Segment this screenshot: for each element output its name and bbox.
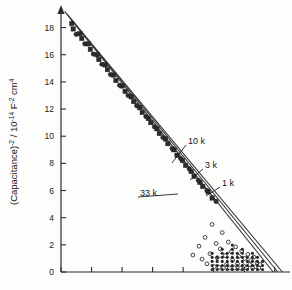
annotation-label: 3 k [205, 160, 218, 170]
annotation-label: 33 k [140, 188, 158, 198]
data-point [214, 199, 219, 204]
data-point [231, 264, 234, 267]
data-point [241, 248, 244, 251]
data-point [226, 268, 229, 271]
data-point [80, 36, 84, 40]
ylabel-base3: cm [8, 82, 19, 97]
data-point [214, 242, 218, 246]
data-point [200, 184, 204, 188]
series-10k [74, 32, 218, 204]
data-point [221, 260, 224, 263]
data-point [241, 260, 244, 263]
data-point [246, 256, 249, 259]
data-point [226, 264, 229, 267]
data-point [203, 235, 207, 239]
ylabel-exp4: 4 [8, 78, 15, 82]
data-point [161, 135, 166, 140]
data-point [236, 256, 239, 259]
data-point [251, 264, 254, 267]
y-tick-label: 4 [49, 213, 54, 223]
data-point [123, 89, 127, 93]
y-tick-label: 2 [49, 240, 54, 250]
data-point [211, 252, 214, 255]
data-point [178, 156, 183, 161]
data-point [134, 103, 139, 108]
data-point [126, 93, 131, 98]
data-point [100, 62, 105, 67]
chart-canvas: (Capacitance)-2 / 10-14 F-2 cm4 02468101… [0, 0, 292, 290]
data-point [256, 264, 259, 267]
fit-line-10k [70, 18, 282, 272]
y-tick-label: 12 [45, 104, 55, 114]
data-point [71, 27, 75, 31]
data-point [256, 268, 259, 271]
data-point [226, 260, 229, 263]
data-point [117, 83, 122, 88]
data-point [221, 256, 224, 259]
data-point [231, 260, 234, 263]
data-point [251, 252, 254, 255]
y-tick-label: 0 [49, 267, 54, 277]
data-point [226, 240, 230, 244]
data-point [236, 264, 239, 267]
ylabel-exp2: -14 [8, 112, 15, 122]
data-point [97, 57, 101, 61]
data-point [191, 253, 195, 257]
data-point [246, 252, 250, 256]
data-point [88, 47, 92, 51]
data-point [131, 99, 135, 103]
data-point [183, 163, 187, 167]
y-tick-label: 14 [45, 77, 55, 87]
data-point [234, 245, 238, 249]
data-point [246, 264, 249, 267]
data-point [231, 248, 234, 251]
data-point [210, 223, 214, 227]
data-point [261, 268, 264, 271]
data-point [216, 260, 219, 263]
data-point [256, 260, 259, 263]
data-point [152, 124, 157, 129]
data-point [187, 167, 192, 172]
data-point [251, 268, 254, 271]
data-point [231, 256, 234, 259]
data-point [108, 72, 113, 77]
data-point [83, 42, 88, 47]
data-point [226, 252, 229, 255]
data-point [211, 260, 214, 263]
data-point [221, 264, 224, 267]
data-point [261, 260, 264, 263]
ylabel-base2: F [8, 103, 19, 112]
y-axis-arrowhead [57, 5, 64, 14]
data-point [231, 252, 234, 255]
data-point [74, 32, 79, 37]
y-tick-label: 10 [45, 131, 55, 141]
data-point [241, 256, 244, 259]
data-point [251, 256, 254, 259]
data-point [200, 257, 204, 261]
data-point [241, 268, 244, 271]
data-point [216, 268, 219, 271]
y-tick-label: 8 [49, 158, 54, 168]
ylabel-base1: (Capacitance) [8, 146, 19, 205]
data-point [251, 260, 254, 263]
data-point [205, 188, 210, 193]
data-point [261, 264, 264, 267]
ylabel-mid: / 10 [8, 121, 19, 140]
data-point [114, 78, 118, 82]
data-point [211, 268, 214, 271]
data-point [231, 244, 234, 247]
fit-line-group [65, 11, 283, 272]
data-point [221, 248, 224, 251]
data-point [210, 196, 214, 200]
data-point [256, 256, 259, 259]
data-point [231, 268, 234, 271]
y-tick-label: 6 [49, 186, 54, 196]
data-point [220, 231, 224, 235]
data-point-group [69, 21, 264, 271]
data-point [236, 252, 239, 255]
y-axis-label: (Capacitance)-2 / 10-14 F-2 cm4 [8, 78, 20, 205]
data-point [144, 114, 149, 119]
data-point [221, 252, 224, 255]
data-point [236, 268, 239, 271]
annotation-label: 10 k [188, 136, 206, 146]
